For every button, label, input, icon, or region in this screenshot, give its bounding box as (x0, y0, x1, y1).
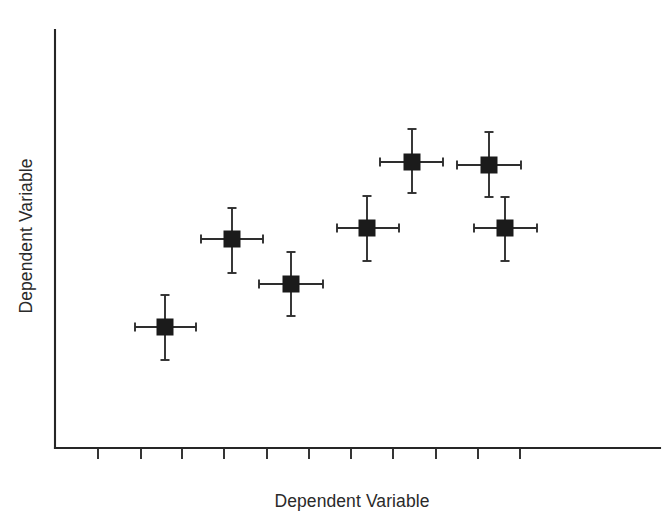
y-axis-label: Dependent Variable (16, 158, 36, 313)
x-axis-label: Dependent Variable (274, 491, 429, 511)
marker-square-p7 (497, 220, 513, 236)
marker-square-p5 (404, 154, 420, 170)
chart-figure: Dependent Variable Dependent Variable (0, 0, 672, 522)
scatter-plot-canvas: Dependent Variable Dependent Variable (0, 0, 672, 522)
marker-square-p6 (481, 157, 497, 173)
marker-square-p4 (359, 220, 375, 236)
marker-square-p2 (224, 231, 240, 247)
marker-square-p3 (283, 276, 299, 292)
marker-square-p1 (157, 319, 173, 335)
chart-background (0, 0, 672, 522)
